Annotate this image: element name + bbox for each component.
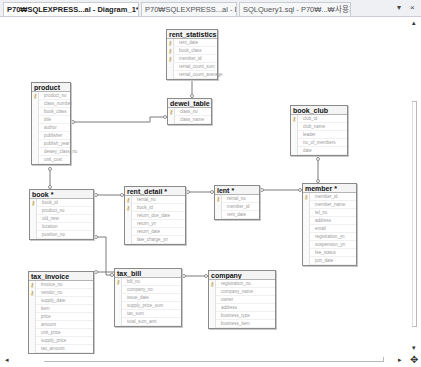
column-row[interactable]: unit_price <box>29 329 93 337</box>
table-product[interactable]: product⚷product_noclass_numberbook_class… <box>31 82 71 165</box>
column-row[interactable]: ⚷rental_no <box>215 195 259 203</box>
row-selector[interactable] <box>209 304 216 312</box>
column-row[interactable]: unit_cost <box>32 156 70 164</box>
scroll-right-icon[interactable]: ▸ <box>398 356 402 364</box>
row-selector[interactable] <box>115 286 122 294</box>
column-row[interactable]: book_class <box>32 108 70 116</box>
column-row[interactable]: location <box>30 223 93 231</box>
column-row[interactable]: leader <box>291 131 347 139</box>
row-selector[interactable] <box>209 296 216 304</box>
row-selector[interactable] <box>168 116 175 124</box>
row-selector[interactable] <box>30 231 37 239</box>
row-selector[interactable] <box>209 288 216 296</box>
table-title[interactable]: rent_statistics <box>167 30 217 39</box>
row-selector[interactable] <box>32 132 39 140</box>
row-selector[interactable] <box>125 220 132 228</box>
column-row[interactable]: ⚷member_id <box>303 193 356 201</box>
row-selector[interactable] <box>209 312 216 320</box>
table-title[interactable]: rent_detail * <box>125 187 185 196</box>
table-title[interactable]: lent * <box>215 186 259 195</box>
column-row[interactable]: ⚷book_id <box>125 204 185 212</box>
row-selector[interactable] <box>215 211 222 219</box>
table-title[interactable]: tax_bill <box>115 269 181 278</box>
table-title[interactable]: member * <box>303 184 356 193</box>
column-row[interactable]: owner <box>209 296 275 304</box>
column-row[interactable]: product_no <box>30 207 93 215</box>
table-tax-invoice[interactable]: tax_invoice⚷invoice_no⚷vendor_nosupply_d… <box>28 271 94 354</box>
table-title[interactable]: product <box>32 83 70 92</box>
column-row[interactable]: ⚷registration_no <box>209 280 275 288</box>
column-row[interactable]: position_no <box>30 231 93 239</box>
row-selector[interactable] <box>32 156 39 164</box>
table-member[interactable]: member *⚷member_idmember_nametel_noaddre… <box>302 183 357 266</box>
tab-diagram-0[interactable]: P70₩SQLEXPRESS...al - Diagram_0* <box>141 2 237 16</box>
column-row[interactable]: ⚷book_class <box>167 47 217 55</box>
row-selector[interactable] <box>215 203 222 211</box>
pan-icon[interactable]: ✥ <box>410 354 418 365</box>
column-row[interactable]: supply_price_sum <box>115 302 181 310</box>
column-row[interactable]: suspension_yn <box>303 241 356 249</box>
table-title[interactable]: company <box>209 271 275 280</box>
table-rent-statistics[interactable]: rent_statistics⚷rent_date⚷book_class⚷mem… <box>166 29 218 80</box>
row-selector[interactable] <box>125 236 132 244</box>
column-row[interactable]: item <box>29 305 93 313</box>
column-row[interactable]: author <box>32 124 70 132</box>
row-selector[interactable] <box>115 318 122 326</box>
row-selector[interactable] <box>115 294 122 302</box>
table-dewei-table[interactable]: dewei_table⚷class_noclass_name <box>167 98 212 125</box>
row-selector[interactable] <box>29 313 36 321</box>
row-selector[interactable] <box>32 140 39 148</box>
row-selector[interactable] <box>29 297 36 305</box>
row-selector[interactable] <box>167 71 174 79</box>
row-selector[interactable] <box>115 302 122 310</box>
column-row[interactable]: tax_sum <box>115 310 181 318</box>
row-selector[interactable] <box>32 124 39 132</box>
column-row[interactable]: fee_status <box>303 249 356 257</box>
column-row[interactable]: amount <box>29 321 93 329</box>
column-row[interactable]: company_name <box>209 288 275 296</box>
row-selector[interactable] <box>209 320 216 328</box>
column-row[interactable]: date <box>291 147 347 155</box>
horizontal-scrollbar[interactable]: ◂ ▸ <box>0 354 408 367</box>
column-row[interactable]: ⚷vendor_no <box>29 289 93 297</box>
table-book-club[interactable]: book_club⚷club_idclub_nameleaderno_of_me… <box>290 105 348 156</box>
column-row[interactable]: title <box>32 116 70 124</box>
column-row[interactable]: price <box>29 313 93 321</box>
table-company[interactable]: company⚷registration_nocompany_nameowner… <box>208 270 276 329</box>
row-selector[interactable] <box>125 228 132 236</box>
column-row[interactable]: dewey_class_no <box>32 148 70 156</box>
column-row[interactable]: rental_count_sum <box>167 63 217 71</box>
column-row[interactable]: late_charge_yn <box>125 236 185 244</box>
column-row[interactable]: tax_amount <box>29 345 93 353</box>
column-row[interactable]: old_new <box>30 215 93 223</box>
column-row[interactable]: club_name <box>291 123 347 131</box>
column-row[interactable]: ⚷club_id <box>291 115 347 123</box>
row-selector[interactable] <box>291 139 298 147</box>
table-rent-detail[interactable]: rent_detail *⚷rental_no⚷book_idreturn_du… <box>124 186 186 245</box>
vertical-scrollbar[interactable]: ▴ <box>408 17 421 354</box>
row-selector[interactable] <box>167 63 174 71</box>
column-row[interactable]: class_name <box>168 116 211 124</box>
row-selector[interactable] <box>30 207 37 215</box>
row-selector[interactable] <box>29 329 36 337</box>
row-selector[interactable] <box>29 337 36 345</box>
row-selector[interactable] <box>32 116 39 124</box>
column-row[interactable]: return_date <box>125 228 185 236</box>
scroll-left-icon[interactable]: ◂ <box>5 356 9 364</box>
row-selector[interactable] <box>29 345 36 353</box>
column-row[interactable]: class_number <box>32 100 70 108</box>
row-selector[interactable] <box>115 310 122 318</box>
column-row[interactable]: tel_no <box>303 209 356 217</box>
column-row[interactable]: company_no <box>115 286 181 294</box>
column-row[interactable]: join_date <box>303 257 356 265</box>
column-row[interactable]: business_item <box>209 320 275 328</box>
table-lent[interactable]: lent *⚷rental_nomember_idrent_date <box>214 185 260 220</box>
column-row[interactable]: publisher <box>32 132 70 140</box>
row-selector[interactable] <box>29 321 36 329</box>
column-row[interactable]: rental_count_average <box>167 71 217 79</box>
row-selector[interactable] <box>303 249 310 257</box>
row-selector[interactable] <box>303 225 310 233</box>
table-title[interactable]: dewei_table <box>168 99 211 108</box>
row-selector[interactable] <box>303 209 310 217</box>
row-selector[interactable] <box>291 131 298 139</box>
